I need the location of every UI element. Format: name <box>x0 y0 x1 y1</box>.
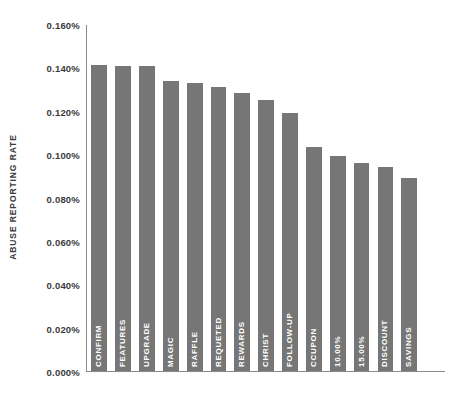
y-axis-tick-label: 0.120% <box>47 106 80 117</box>
bar-label: REWARDS <box>238 321 246 367</box>
y-axis-tick-label: 0.080% <box>47 193 80 204</box>
x-axis-line <box>86 371 445 372</box>
bar-label: RAFFLE <box>191 331 199 367</box>
bar-label: OTHER <box>429 335 437 367</box>
bar-group[interactable]: 10.00% <box>330 156 346 371</box>
bar-group[interactable]: UPGRADE <box>139 66 155 370</box>
bar-label: MAGIC <box>167 336 175 366</box>
bar-group[interactable]: REWARDS <box>234 93 250 371</box>
y-axis-tick-label: 0.000% <box>47 367 80 378</box>
y-axis-tick-label: 0.060% <box>47 236 80 247</box>
y-axis-tick-label: 0.040% <box>47 280 80 291</box>
bar-label: 15.00% <box>358 335 366 366</box>
bar-label: FEATURES <box>119 318 127 366</box>
bar-label: REQUETED <box>215 317 223 367</box>
bar-group[interactable]: REQUETED <box>211 87 227 371</box>
bar-label: CHRIST <box>262 333 270 367</box>
bar-group[interactable]: FOLLOW-UP <box>282 113 298 371</box>
bar-label: UPGRADE <box>143 322 151 367</box>
y-axis-tick-label: 0.160% <box>47 20 80 31</box>
bar-label: FOLLOW-UP <box>286 312 294 367</box>
bar[interactable] <box>187 83 203 370</box>
bar-label: 10.00% <box>334 335 342 366</box>
y-axis-tick-label: 0.140% <box>47 63 80 74</box>
y-axis-tick-label: 0.100% <box>47 150 80 161</box>
bar-label: DISCOUNT <box>381 319 389 366</box>
bar-group[interactable]: CCUPON <box>306 147 322 371</box>
bar[interactable] <box>163 81 179 370</box>
bar-group[interactable]: CONFIRM <box>91 65 107 371</box>
bar-group[interactable]: SAVINGS <box>401 178 417 371</box>
bar-group[interactable]: RAFFLE <box>187 83 203 370</box>
y-axis-tick-labels: 0.160%0.140%0.120%0.100%0.080%0.060%0.04… <box>26 0 84 394</box>
bar-group[interactable]: CHRIST <box>258 100 274 370</box>
bar[interactable] <box>258 100 274 370</box>
plot-area: CONFIRMFEATURESUPGRADEMAGICRAFFLEREQUETE… <box>86 25 445 372</box>
y-axis-tick-label: 0.020% <box>47 323 80 334</box>
bar-chart: ABUSE REPORTING RATE 0.160%0.140%0.120%0… <box>0 0 473 394</box>
y-axis-title-text: ABUSE REPORTING RATE <box>8 134 18 260</box>
bar-label: SAVINGS <box>405 326 413 366</box>
bar-label: CCUPON <box>310 328 318 367</box>
bar-group[interactable]: DISCOUNT <box>378 167 394 371</box>
bar-label: CONFIRM <box>95 324 103 366</box>
bars-layer: CONFIRMFEATURESUPGRADEMAGICRAFFLEREQUETE… <box>87 25 445 371</box>
y-axis-title: ABUSE REPORTING RATE <box>0 0 26 394</box>
bar-group[interactable]: MAGIC <box>163 81 179 370</box>
bar-group[interactable]: FEATURES <box>115 66 131 371</box>
bar-group[interactable]: 15.00% <box>354 163 370 370</box>
